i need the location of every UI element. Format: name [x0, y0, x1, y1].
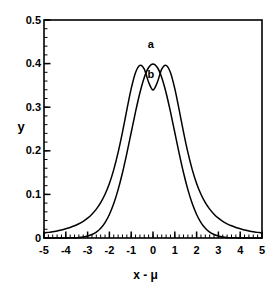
curve-label-a: a	[144, 39, 158, 50]
x-tick-label: 2	[185, 245, 209, 256]
curve-b	[44, 65, 262, 233]
y-tick-label: 0.4	[5, 58, 41, 69]
x-tick-label: 0	[141, 245, 165, 256]
x-tick-label: 5	[250, 245, 274, 256]
x-tick-label: -1	[119, 245, 143, 256]
y-tick-label: 0.3	[5, 102, 41, 113]
plot-frame	[44, 20, 262, 238]
x-tick-label: -2	[97, 245, 121, 256]
chart-figure: y x - μ 00.10.20.30.40.5 -5-4-3-2-101234…	[0, 0, 280, 293]
x-tick-label: 1	[163, 245, 187, 256]
y-tick-label: 0.5	[5, 15, 41, 26]
y-tick-label: 0.1	[5, 189, 41, 200]
x-tick-label: -3	[76, 245, 100, 256]
y-tick-label: 0	[5, 233, 41, 244]
x-tick-label: 3	[206, 245, 230, 256]
y-tick-label: 0.2	[5, 145, 41, 156]
x-axis-title: x - μ	[78, 268, 213, 282]
x-tick-label: -4	[54, 245, 78, 256]
x-tick-label: 4	[228, 245, 252, 256]
curve-label-b: b	[144, 69, 158, 80]
x-tick-label: -5	[32, 245, 56, 256]
